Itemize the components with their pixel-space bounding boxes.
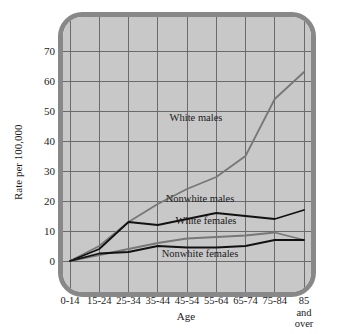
y-axis-tick-label: 0: [50, 255, 56, 267]
series-label-nonwhite-females: Nonwhite females: [162, 248, 239, 259]
y-axis-tick-label: 10: [44, 225, 56, 237]
y-axis-tick-label: 50: [44, 105, 56, 117]
y-axis-tick-label: 30: [44, 165, 56, 177]
x-axis-tick-label: 35-44: [146, 295, 171, 306]
series-label-white-males: White males: [170, 112, 223, 123]
rate-by-age-line-chart: 010203040506070Rate per 100,000White mal…: [0, 0, 345, 334]
x-axis-tick-label-extra: over: [295, 318, 314, 329]
series-label-nonwhite-males: Nonwhite males: [166, 193, 235, 204]
x-axis-tick-label: 85: [299, 295, 310, 306]
y-axis-tick-label: 60: [44, 75, 56, 87]
y-axis-title: Rate per 100,000: [12, 124, 24, 200]
chart-container: 010203040506070Rate per 100,000White mal…: [0, 0, 345, 334]
x-axis-tick-label: 25-34: [116, 295, 141, 306]
x-axis-tick-label: 15-24: [87, 295, 112, 306]
x-axis-tick-label: 75-84: [263, 295, 288, 306]
y-axis-tick-label: 70: [44, 45, 56, 57]
x-axis-title: Age: [177, 310, 195, 322]
x-axis-tick-label: 45-54: [175, 295, 200, 306]
y-axis-tick-label: 40: [44, 135, 56, 147]
x-axis-tick-label-extra: and: [296, 307, 312, 318]
x-axis-tick-label: 55-64: [204, 295, 229, 306]
x-axis-tick-label: 65-74: [233, 295, 258, 306]
x-axis-tick-label: 0-14: [60, 295, 80, 306]
series-label-white-females: White females: [176, 215, 237, 226]
y-axis-tick-label: 20: [44, 195, 56, 207]
